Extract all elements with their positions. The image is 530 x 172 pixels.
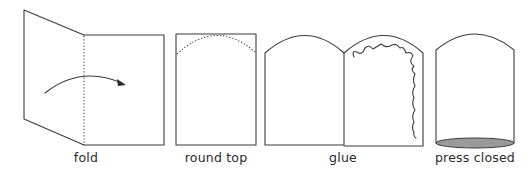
press-closed-step-figure: [436, 34, 514, 148]
fold-right-panel: [84, 35, 164, 145]
round-top-label: round top: [185, 150, 248, 165]
press-closed-label: press closed: [435, 150, 515, 165]
glue-step-figure: [265, 36, 423, 147]
folding-diagram: [0, 0, 530, 172]
glue-label: glue: [329, 150, 357, 165]
press-closed-base-ellipse: [436, 138, 514, 148]
fold-step-figure: [24, 10, 164, 145]
round-top-rectangle: [176, 34, 256, 145]
fold-arrowhead-icon: [117, 79, 126, 86]
round-top-step-figure: [176, 34, 256, 145]
round-top-cut-line: [177, 35, 255, 54]
glue-squiggle-line: [353, 44, 416, 138]
fold-label: fold: [74, 150, 98, 165]
press-closed-body: [436, 34, 514, 143]
glue-left-panel: [265, 36, 344, 146]
